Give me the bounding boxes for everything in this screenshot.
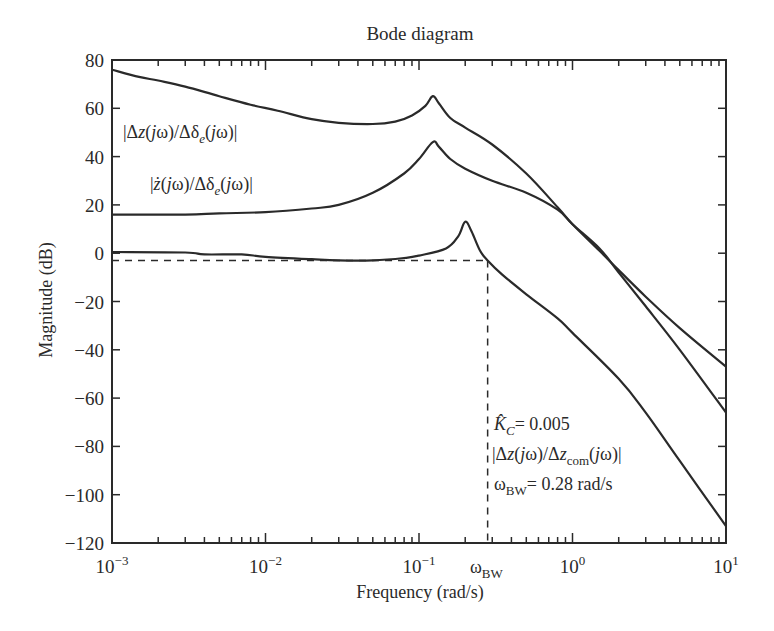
y-axis-tick-labels: 806040200−20−40−60−80−100−120 (65, 50, 104, 554)
annotation-omega-bw: ωBW= 0.28 rad/s (494, 474, 612, 498)
y-tick-label: −20 (74, 292, 104, 313)
series-line-3 (112, 222, 726, 526)
y-tick-label: −60 (74, 388, 104, 409)
x-tick-label: 100 (560, 553, 586, 577)
y-tick-label: 40 (85, 147, 104, 168)
series-line-1 (112, 70, 726, 367)
y-tick-label: 80 (85, 50, 104, 71)
x-tick-label: 10−3 (96, 553, 129, 577)
annotation-dz-dzcom: |Δz(jω)/Δzcom(jω)| (492, 444, 622, 468)
x-tick-label: 10−2 (249, 553, 282, 577)
x-tick-label: 10−1 (403, 553, 436, 577)
y-tick-label: −100 (65, 485, 104, 506)
x-tick-label: 101 (713, 553, 739, 577)
annotation-zdot-ddelta: |ż(jω)/Δδe(jω)| (150, 174, 253, 198)
x-axis-tick-labels: 10−310−210−1100101 (96, 553, 739, 577)
y-axis-label: Magnitude (dB) (36, 242, 57, 357)
y-tick-label: −120 (65, 533, 104, 554)
bode-chart: Bode diagram 806040200−20−40−60−80−100−1… (0, 0, 774, 631)
chart-title: Bode diagram (366, 23, 473, 44)
x-axis-label: Frequency (rad/s) (356, 582, 483, 603)
y-tick-label: 0 (95, 243, 105, 264)
y-tick-label: −80 (74, 436, 104, 457)
y-tick-label: −40 (74, 340, 104, 361)
annotation-dz-ddelta: |Δz(jω)/Δδe(jω)| (123, 122, 237, 146)
y-tick-label: 20 (85, 195, 104, 216)
annotation-kc: K̂C= 0.005 (493, 414, 570, 438)
y-tick-label: 60 (85, 98, 104, 119)
x-tick-label-omega-bw: ωBW (470, 557, 504, 581)
bandwidth-reference-lines (112, 260, 488, 543)
